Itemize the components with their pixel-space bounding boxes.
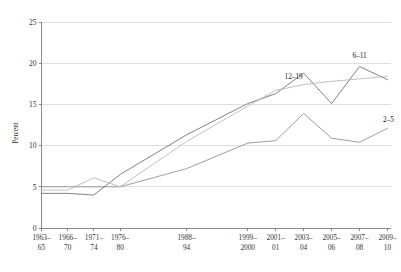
- x-tick-label-bottom-8: 06: [328, 243, 336, 252]
- y-axis-title: Percent: [12, 122, 20, 144]
- line-chart: 0510152025 1963–651966–701971–741976–801…: [0, 0, 401, 272]
- chart-background: [0, 0, 401, 272]
- y-tick-label-10: 10: [29, 141, 37, 150]
- x-tick-label-top-6: 2001–: [267, 233, 286, 242]
- chart-container: 0510152025 1963–651966–701971–741976–801…: [0, 0, 401, 272]
- x-tick-label-top-4: 1988–: [177, 233, 196, 242]
- x-tick-label-bottom-10: 10: [384, 243, 392, 252]
- x-tick-label-bottom-4: 94: [183, 243, 191, 252]
- x-tick-label-top-7: 2003–: [295, 233, 314, 242]
- series-label-2-5: 2–5: [383, 115, 394, 124]
- y-tick-label-25: 25: [29, 18, 37, 27]
- x-tick-label-bottom-0: 65: [38, 243, 46, 252]
- x-tick-label-top-3: 1976–: [111, 233, 130, 242]
- x-tick-label-top-8: 2005–: [322, 233, 341, 242]
- x-tick-label-bottom-9: 08: [356, 243, 364, 252]
- x-tick-label-top-9: 2007–: [350, 233, 369, 242]
- y-tick-label-0: 0: [33, 224, 37, 233]
- x-tick-label-bottom-7: 04: [300, 243, 308, 252]
- series-label-6-11: 6–11: [352, 51, 367, 60]
- y-tick-label-20: 20: [29, 59, 37, 68]
- x-tick-label-bottom-5: 2000: [240, 243, 255, 252]
- x-tick-label-top-10: 2009–: [378, 233, 397, 242]
- x-tick-label-bottom-3: 80: [116, 243, 124, 252]
- x-tick-label-bottom-1: 70: [64, 243, 72, 252]
- y-tick-label-15: 15: [29, 100, 37, 109]
- y-tick-label-5: 5: [33, 183, 37, 192]
- x-tick-label-top-0: 1963–: [32, 233, 51, 242]
- x-tick-label-top-2: 1971–: [85, 233, 104, 242]
- x-tick-label-bottom-2: 74: [90, 243, 98, 252]
- x-tick-label-bottom-6: 01: [272, 243, 280, 252]
- series-label-12-19: 12–19: [285, 72, 304, 81]
- x-tick-label-top-1: 1966–: [59, 233, 78, 242]
- x-tick-label-top-5: 1999–: [239, 233, 258, 242]
